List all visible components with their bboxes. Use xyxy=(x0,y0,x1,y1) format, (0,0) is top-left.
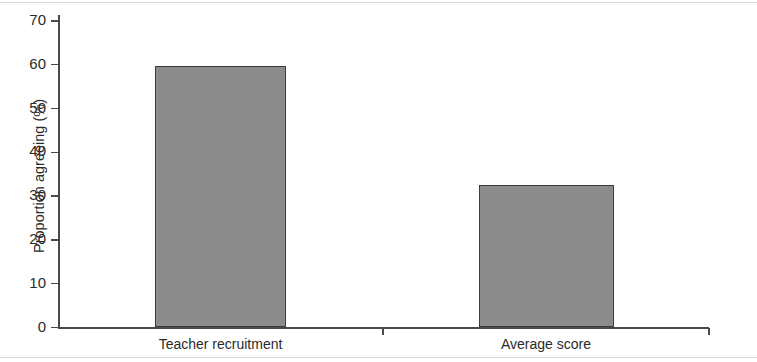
y-axis-line xyxy=(58,15,60,329)
y-axis-tick-label: 0 xyxy=(0,318,46,335)
y-axis-tick xyxy=(51,20,58,21)
y-axis-tick xyxy=(51,152,58,153)
y-axis-tick-label: 20 xyxy=(0,230,46,247)
x-axis-category-label: Average score xyxy=(396,336,696,352)
x-axis-tick xyxy=(708,328,709,335)
bar-2 xyxy=(479,185,614,327)
y-axis-tick-label: 70 xyxy=(0,11,46,28)
y-axis-tick xyxy=(51,239,58,240)
bar-chart-figure: Proportion agreeing (%) 010203040506070T… xyxy=(0,0,757,362)
plot-area: Proportion agreeing (%) 010203040506070T… xyxy=(0,0,757,362)
y-axis-tick-label: 60 xyxy=(0,55,46,72)
y-axis-tick xyxy=(51,327,58,328)
y-axis-tick-label: 30 xyxy=(0,186,46,203)
y-axis-tick xyxy=(51,108,58,109)
y-axis-tick xyxy=(51,195,58,196)
y-axis-title: Proportion agreeing (%) xyxy=(31,61,47,291)
y-axis-tick-label: 40 xyxy=(0,142,46,159)
bar-1 xyxy=(155,66,286,328)
y-axis-tick-label: 50 xyxy=(0,99,46,116)
y-axis-tick-label: 10 xyxy=(0,274,46,291)
x-axis-category-label: Teacher recruitment xyxy=(71,336,371,352)
y-axis-tick xyxy=(51,283,58,284)
y-axis-tick xyxy=(51,64,58,65)
x-axis-tick xyxy=(382,328,383,335)
